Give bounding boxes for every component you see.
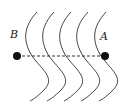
wavefront-diagram: B A <box>0 0 130 108</box>
point-a-label: A <box>99 30 108 43</box>
point-a-dot <box>101 52 109 60</box>
point-b-label: B <box>9 28 18 41</box>
point-b-dot <box>13 52 21 60</box>
